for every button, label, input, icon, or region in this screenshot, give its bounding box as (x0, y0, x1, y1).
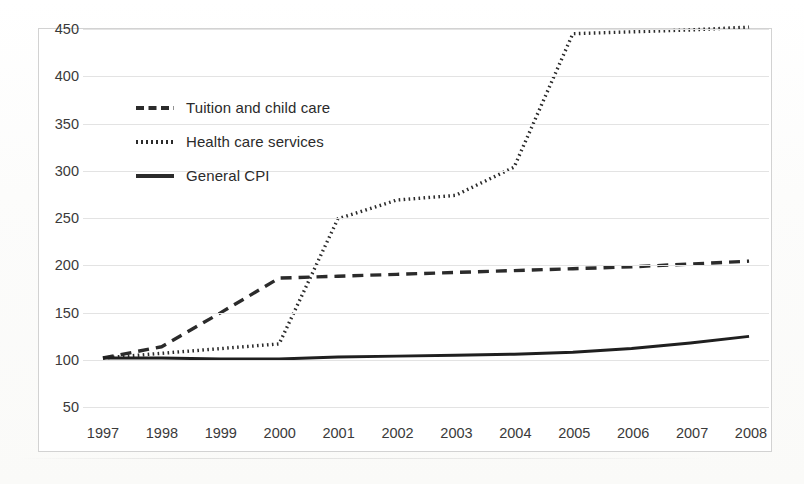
y-tick-label: 450 (55, 21, 79, 37)
gridline (83, 29, 769, 30)
y-tick-label: 400 (55, 68, 79, 84)
y-tick-label: 150 (55, 305, 79, 321)
legend-swatch-dashed-icon (135, 101, 175, 115)
scan-edge-line (18, 458, 718, 459)
x-tick-label: 2001 (322, 425, 354, 441)
x-tick-label: 2000 (264, 425, 296, 441)
y-tick-label: 250 (55, 210, 79, 226)
gridline (83, 313, 769, 314)
legend-label: Health care services (186, 133, 324, 150)
gridline (83, 265, 769, 266)
y-tick-label: 350 (55, 116, 79, 132)
y-tick-label: 100 (55, 352, 79, 368)
plot-area (83, 29, 769, 405)
x-tick-label: 2005 (558, 425, 590, 441)
series-line (103, 336, 749, 359)
x-axis: 1997199819992000200120022003200420052006… (83, 417, 769, 441)
y-axis: 50100150200250300350400450 (39, 29, 79, 405)
chart-legend: Tuition and child careHealth care servic… (135, 99, 330, 184)
legend-item[interactable]: Tuition and child care (135, 99, 330, 116)
x-tick-label: 2007 (676, 425, 708, 441)
y-tick-label: 300 (55, 163, 79, 179)
x-tick-label: 1999 (205, 425, 237, 441)
line-chart: 50100150200250300350400450 1997199819992… (38, 28, 772, 452)
y-tick-label: 50 (63, 399, 79, 415)
x-tick-label: 1998 (146, 425, 178, 441)
gridline (83, 407, 769, 408)
x-tick-label: 2008 (735, 425, 767, 441)
legend-swatch-dotted-icon (135, 135, 175, 149)
gridline (83, 218, 769, 219)
gridline (83, 360, 769, 361)
legend-item[interactable]: General CPI (135, 167, 330, 184)
x-tick-label: 2002 (381, 425, 413, 441)
legend-label: General CPI (186, 167, 270, 184)
legend-swatch-solid-icon (135, 169, 175, 183)
series-layer (83, 29, 769, 405)
gridline (83, 76, 769, 77)
series-line (103, 261, 749, 358)
x-tick-label: 1997 (87, 425, 119, 441)
x-tick-label: 2003 (440, 425, 472, 441)
legend-item[interactable]: Health care services (135, 133, 330, 150)
x-tick-label: 2004 (499, 425, 531, 441)
x-tick-label: 2006 (617, 425, 649, 441)
legend-label: Tuition and child care (186, 99, 330, 116)
y-tick-label: 200 (55, 257, 79, 273)
page-canvas: 50100150200250300350400450 1997199819992… (0, 0, 804, 484)
